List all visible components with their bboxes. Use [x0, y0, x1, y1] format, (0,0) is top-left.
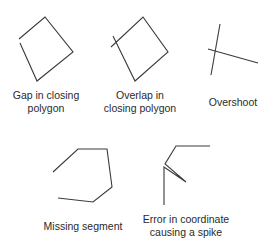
gap-polygon-shape: [19, 17, 73, 81]
panel-spike: Error in coordinate causing a spike: [143, 146, 230, 238]
digitizing-errors-diagram: Gap in closing polygon Overlap in closin…: [0, 0, 274, 243]
panel-missing-segment: Missing segment: [44, 149, 123, 232]
overshoot-line-vertical: [211, 24, 220, 75]
overlap-polygon-shape: [111, 17, 168, 81]
spike-label-line-1: Error in coordinate: [143, 213, 230, 225]
panel-overlap: Overlap in closing polygon: [104, 17, 177, 114]
gap-label-line-2: polygon: [28, 102, 65, 114]
gap-label-line-1: Gap in closing: [13, 89, 80, 101]
missing-segment-label: Missing segment: [44, 220, 123, 232]
panel-overshoot: Overshoot: [208, 24, 258, 108]
missing-segment-shape: [53, 149, 112, 202]
panel-gap: Gap in closing polygon: [13, 17, 80, 114]
spike-shape: [164, 146, 210, 205]
overlap-label-line-1: Overlap in: [116, 89, 164, 101]
spike-label-line-2: causing a spike: [150, 226, 223, 238]
overshoot-label: Overshoot: [209, 96, 258, 108]
overshoot-line-horizontal: [208, 49, 258, 63]
overlap-label-line-2: closing polygon: [104, 102, 177, 114]
